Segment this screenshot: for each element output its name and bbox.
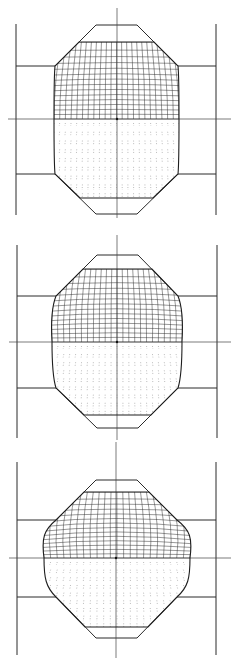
upper-die-outline (16, 25, 216, 66)
lower-die-outline (16, 174, 216, 214)
center-point (115, 557, 117, 559)
lower-velocity-field (43, 562, 191, 629)
forging-simulation-figure (0, 0, 236, 663)
figure-3 (9, 442, 231, 658)
deformation-mesh-diagram (0, 0, 236, 663)
upper-mesh-grid (42, 267, 192, 342)
figure-2 (9, 235, 231, 440)
upper-mesh-grid (34, 490, 200, 558)
center-point (116, 341, 118, 343)
center-point (116, 118, 118, 120)
lower-velocity-field (53, 123, 179, 199)
upper-mesh-grid (44, 40, 189, 119)
lower-die-outline (17, 597, 216, 638)
figure-1 (8, 8, 231, 218)
